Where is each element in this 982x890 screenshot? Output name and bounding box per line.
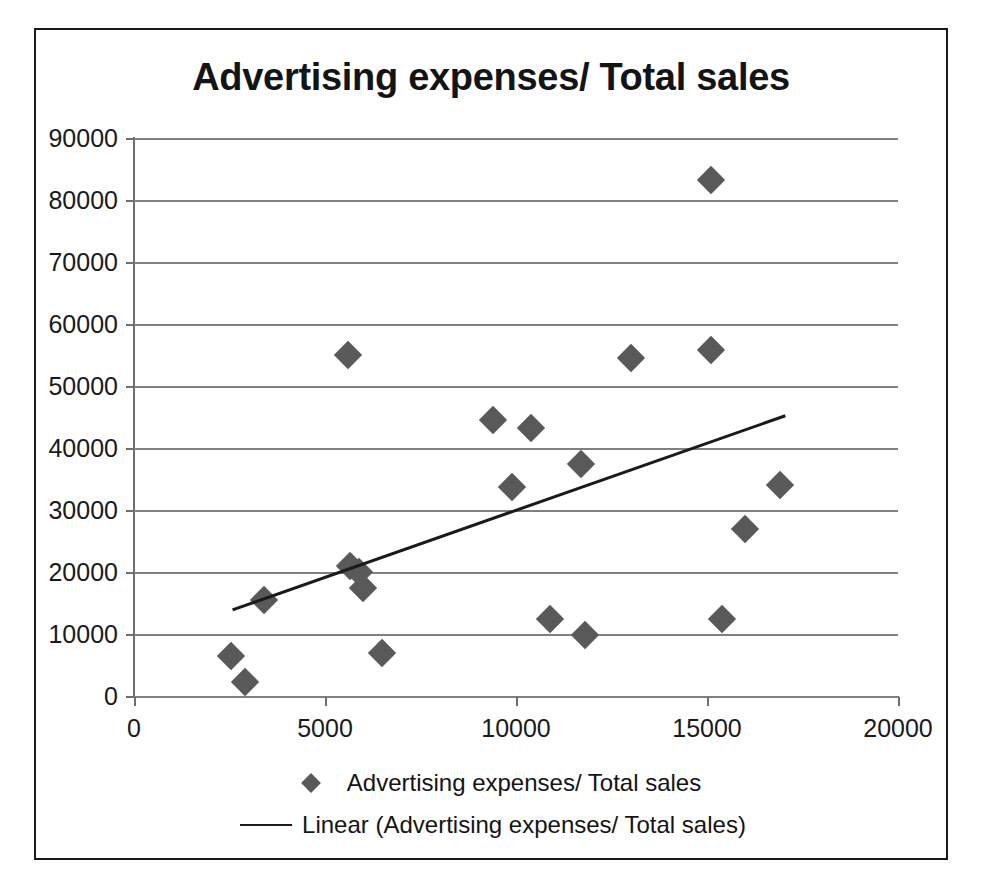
- y-tick-mark: [126, 262, 134, 264]
- x-tick-mark: [134, 697, 136, 706]
- line-marker-icon: [236, 824, 296, 826]
- y-tick-label: 30000: [8, 496, 118, 525]
- y-tick-label: 0: [8, 682, 118, 711]
- x-tick-label: 10000: [481, 714, 551, 743]
- gridline-horizontal: [134, 386, 898, 388]
- y-tick-label: 90000: [8, 124, 118, 153]
- legend-item-series[interactable]: Advertising expenses/ Total sales: [0, 762, 982, 804]
- chart-legend: Advertising expenses/ Total sales Linear…: [0, 762, 982, 846]
- x-tick-mark: [898, 697, 900, 706]
- gridline-horizontal: [134, 138, 898, 140]
- x-tick-mark: [325, 697, 327, 706]
- legend-label-series: Advertising expenses/ Total sales: [341, 769, 701, 797]
- y-tick-label: 60000: [8, 310, 118, 339]
- gridline-horizontal: [134, 572, 898, 574]
- chart-title: Advertising expenses/ Total sales: [36, 56, 946, 99]
- x-tick-label: 5000: [297, 714, 353, 743]
- y-tick-mark: [126, 200, 134, 202]
- y-tick-mark: [126, 696, 134, 698]
- y-tick-label: 80000: [8, 186, 118, 215]
- gridline-horizontal: [134, 200, 898, 202]
- y-axis-line: [133, 137, 135, 697]
- y-tick-label: 10000: [8, 620, 118, 649]
- y-tick-mark: [126, 448, 134, 450]
- gridline-horizontal: [134, 324, 898, 326]
- y-tick-mark: [126, 138, 134, 140]
- legend-item-trendline[interactable]: Linear (Advertising expenses/ Total sale…: [0, 804, 982, 846]
- x-tick-label: 20000: [863, 714, 933, 743]
- x-tick-label: 0: [127, 714, 141, 743]
- legend-label-trendline: Linear (Advertising expenses/ Total sale…: [296, 811, 746, 839]
- x-tick-mark: [516, 697, 518, 706]
- y-tick-label: 50000: [8, 372, 118, 401]
- y-tick-mark: [126, 572, 134, 574]
- y-tick-mark: [126, 634, 134, 636]
- gridline-horizontal: [134, 262, 898, 264]
- y-tick-label: 40000: [8, 434, 118, 463]
- x-tick-mark: [707, 697, 709, 706]
- x-tick-label: 15000: [672, 714, 742, 743]
- y-tick-mark: [126, 386, 134, 388]
- diamond-marker-icon: [281, 776, 341, 790]
- gridline-horizontal: [134, 448, 898, 450]
- gridline-horizontal: [134, 510, 898, 512]
- gridline-horizontal: [134, 634, 898, 636]
- y-tick-label: 20000: [8, 558, 118, 587]
- y-axis-tick-labels: 0100002000030000400005000060000700008000…: [0, 0, 118, 890]
- y-tick-label: 70000: [8, 248, 118, 277]
- y-tick-mark: [126, 324, 134, 326]
- y-tick-mark: [126, 510, 134, 512]
